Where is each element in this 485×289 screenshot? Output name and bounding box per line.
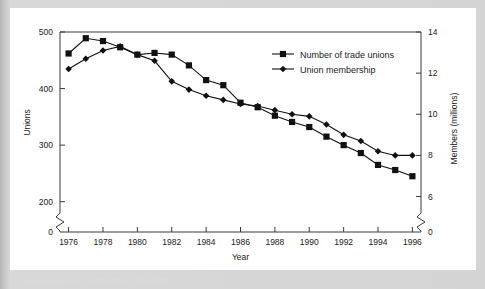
y-tick-label: 200 — [39, 197, 53, 207]
y2-tick-label: 10 — [428, 109, 438, 119]
axis-break-zigzag — [417, 213, 425, 231]
y-tick-label: 400 — [39, 84, 53, 94]
data-point — [186, 62, 192, 68]
legend-label: Union membership — [300, 65, 376, 75]
data-point — [82, 55, 89, 62]
y2-axis-title: Members (millions) — [449, 92, 459, 164]
data-point — [65, 50, 71, 56]
y-tick-label: 300 — [39, 140, 53, 150]
y-tick-label: 0 — [48, 227, 53, 237]
data-point — [392, 167, 398, 173]
outer-frame: 0200300400500068101214197619781980198219… — [0, 0, 485, 289]
x-tick-label: 1982 — [162, 237, 181, 247]
y2-tick-label: 6 — [428, 192, 433, 202]
data-point — [272, 107, 279, 114]
chart-plot-area: 0200300400500068101214197619781980198219… — [10, 8, 476, 270]
data-point — [220, 97, 227, 104]
data-point — [323, 121, 330, 128]
data-point — [83, 35, 89, 41]
data-point — [340, 132, 347, 139]
y-tick-label: 500 — [39, 27, 53, 37]
data-point — [203, 92, 210, 99]
data-point — [186, 86, 193, 93]
data-point — [65, 66, 72, 73]
union-trends-line-chart: 0200300400500068101214197619781980198219… — [10, 8, 476, 270]
data-point — [392, 152, 399, 159]
x-tick-label: 1994 — [369, 237, 388, 247]
x-tick-label: 1990 — [300, 237, 319, 247]
data-point — [341, 142, 347, 148]
data-point — [358, 138, 365, 145]
data-point — [375, 162, 381, 168]
y2-tick-label: 8 — [428, 150, 433, 160]
legend-marker — [280, 51, 286, 57]
series-2 — [65, 43, 415, 159]
x-tick-label: 1980 — [128, 237, 147, 247]
data-point — [306, 124, 312, 130]
data-point — [151, 50, 157, 56]
legend-label: Number of trade unions — [300, 50, 395, 60]
data-point — [289, 111, 296, 118]
x-tick-label: 1988 — [265, 237, 284, 247]
x-tick-label: 1984 — [197, 237, 216, 247]
data-point — [289, 119, 295, 125]
x-tick-label: 1978 — [94, 237, 113, 247]
data-point — [220, 82, 226, 88]
data-point — [203, 77, 209, 83]
data-point — [409, 152, 416, 159]
figure-panel: 0200300400500068101214197619781980198219… — [10, 8, 476, 270]
data-point — [375, 148, 382, 155]
y-axis-title: Unions — [22, 109, 32, 135]
data-point — [409, 173, 415, 179]
legend-marker — [280, 66, 287, 73]
data-point — [323, 134, 329, 140]
x-tick-label: 1976 — [59, 237, 78, 247]
data-point — [100, 38, 106, 44]
figure-caption: Trade unions and membership, 1976-1996 — [18, 276, 458, 288]
y2-tick-label: 0 — [428, 227, 433, 237]
x-tick-label: 1992 — [334, 237, 353, 247]
x-tick-label: 1986 — [231, 237, 250, 247]
x-tick-label: 1996 — [403, 237, 422, 247]
y2-tick-label: 12 — [428, 68, 438, 78]
axis-break-zigzag — [56, 213, 64, 231]
data-point — [169, 52, 175, 58]
data-point — [306, 113, 313, 120]
data-point — [100, 47, 107, 54]
data-point — [358, 150, 364, 156]
y2-tick-label: 14 — [428, 27, 438, 37]
x-axis-title: Year — [232, 252, 249, 262]
data-point — [272, 113, 278, 119]
